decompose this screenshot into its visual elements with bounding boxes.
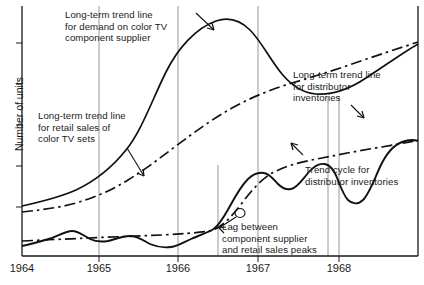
x-tick-label-1967: 1967 [236, 262, 280, 274]
chart-figure: Number of units 1964 1965 1966 1967 1968… [0, 0, 424, 285]
x-tick-label-1964: 1964 [0, 262, 44, 274]
x-tick-label-1965: 1965 [77, 262, 121, 274]
x-axis-ticks [99, 256, 339, 262]
annotation-leaders [127, 13, 364, 233]
annotation-demand-trend: Long-term trend line for demand on color… [65, 9, 167, 44]
leader-lag-loop [235, 209, 245, 218]
annotation-lag: Lag between component supplier and retai… [222, 221, 317, 256]
leader-demand-arrow [196, 13, 214, 30]
series-distributor-trend [22, 140, 418, 241]
series-distributor-trend-cycle [22, 140, 418, 247]
annotation-trend-cycle: Trend cycle for distributor inventories [305, 164, 398, 187]
annotation-distributor-trend: Long-term trend line for distributor inv… [293, 69, 381, 104]
annotation-retail-trend: Long-term trend line for retail sales of… [38, 110, 126, 145]
y-axis-label: Number of units [13, 49, 25, 179]
leader-retail-arrow [127, 148, 144, 176]
x-tick-label-1968: 1968 [317, 262, 361, 274]
x-tick-label-1966: 1966 [156, 262, 200, 274]
